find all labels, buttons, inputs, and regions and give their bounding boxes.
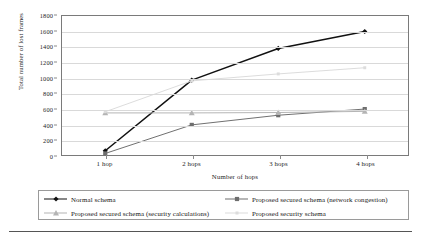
x-axis-tick-mark [106, 155, 107, 159]
legend-marker-icon [225, 194, 248, 204]
legend-item[interactable]: Proposed secured schema (security calcul… [44, 206, 209, 220]
y-axis-tick-mark [54, 124, 57, 125]
y-axis-tick-mark [54, 15, 57, 16]
y-axis-tick-mark [54, 156, 57, 157]
x-axis-tick-mark [280, 155, 281, 159]
data-point-marker [53, 210, 59, 215]
x-axis-tick-label: 3 hops [269, 160, 288, 167]
y-axis-tick-mark [54, 140, 57, 141]
figure-line-chart: Total number of lost frames 180016001400… [0, 0, 421, 242]
legend-label: Proposed security schema [252, 210, 326, 217]
plot-area [61, 15, 409, 156]
data-point-marker [277, 72, 280, 75]
footer-rule [9, 231, 412, 232]
y-axis-tick-mark [54, 77, 57, 78]
data-point-marker [235, 212, 238, 215]
x-axis-tick-label: 4 hops [356, 160, 375, 167]
series-line [105, 111, 365, 113]
series-line [105, 31, 365, 150]
data-point-marker [234, 197, 238, 201]
x-axis-tick-label: 1 hop [97, 160, 113, 167]
gridline [62, 141, 408, 142]
y-axis-tick-mark [54, 46, 57, 47]
y-axis-tick-mark [54, 30, 57, 31]
series-4 [104, 66, 366, 113]
chart-legend: Normal schemaProposed secured schema (ne… [38, 190, 409, 220]
legend-item[interactable]: Proposed security schema [225, 206, 326, 220]
legend-marker-icon [44, 194, 67, 204]
x-axis-tick-label: 2 hops [182, 160, 201, 167]
gridline [62, 63, 408, 64]
y-axis-tick-label: 1200 [40, 59, 53, 66]
y-axis-tick-label: 0 [50, 153, 53, 160]
series-line [105, 68, 365, 112]
y-axis-tick-labels: 180016001400120010008006004002000 [0, 15, 57, 156]
x-axis-tick-mark [367, 155, 368, 159]
legend-label: Proposed secured schema (security calcul… [71, 210, 209, 217]
y-axis-tick-mark [54, 109, 57, 110]
y-axis-tick-label: 400 [43, 121, 53, 128]
y-axis-tick-mark [54, 93, 57, 94]
legend-item[interactable]: Normal schema [44, 192, 116, 206]
x-axis-title: Number of hops [61, 173, 409, 180]
y-axis-tick-label: 1600 [40, 27, 53, 34]
gridline [62, 47, 408, 48]
y-axis-tick-label: 1400 [40, 43, 53, 50]
y-axis-tick-label: 200 [43, 137, 53, 144]
gridline [62, 94, 408, 95]
series-line [105, 109, 365, 153]
y-axis-tick-label: 1000 [40, 74, 53, 81]
data-point-marker [363, 66, 366, 69]
gridline [62, 79, 408, 80]
y-axis-tick-label: 600 [43, 106, 53, 113]
x-axis-tick-labels: 1 hop2 hops3 hops4 hops [61, 160, 409, 172]
series-layer [62, 16, 408, 155]
gridline [62, 126, 408, 127]
data-point-marker [53, 196, 58, 201]
legend-item[interactable]: Proposed secured schema (network congest… [225, 192, 388, 206]
legend-marker-icon [44, 208, 67, 218]
gridline [62, 32, 408, 33]
data-point-marker [190, 79, 193, 82]
legend-marker-icon [225, 208, 248, 218]
legend-label: Proposed secured schema (network congest… [252, 196, 388, 203]
series-2 [103, 107, 367, 156]
y-axis-tick-label: 1800 [40, 12, 53, 19]
gridline [62, 110, 408, 111]
y-axis-tick-label: 800 [43, 90, 53, 97]
x-axis-tick-mark [193, 155, 194, 159]
y-axis-tick-mark [54, 62, 57, 63]
legend-label: Normal schema [71, 196, 116, 203]
